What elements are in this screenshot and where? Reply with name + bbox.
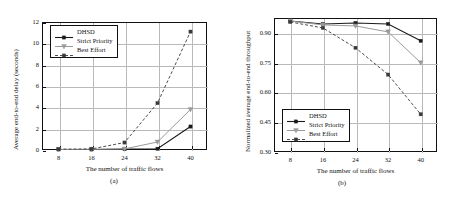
y-tick-label: 2	[20, 125, 39, 132]
y-tick-label: 8	[20, 61, 39, 68]
panel-caption-a: (a)	[0, 178, 228, 185]
y-tick-label: 0.45	[252, 119, 271, 126]
y-axis-tick	[43, 151, 46, 152]
legend-label: Strict Priority	[309, 122, 345, 129]
legend-item: DHSD	[286, 112, 345, 121]
legend-label: DHSD	[309, 113, 327, 120]
x-tick-label: 32	[154, 155, 161, 162]
legend-marker-icon	[54, 28, 74, 37]
x-tick-label: 8	[57, 155, 60, 162]
series-line	[59, 127, 191, 150]
x-axis-title-a: The number of traffic flows	[42, 166, 207, 173]
x-tick-label: 24	[352, 157, 359, 164]
legend-item: DHSD	[54, 28, 113, 37]
y-tick-label: 10	[20, 40, 39, 47]
y-tick-label: 0.60	[252, 89, 271, 96]
legend-label: Best Effort	[309, 131, 338, 138]
chart-panel-a: DHSDStrict PriorityBest Effort Average e…	[0, 0, 228, 207]
y-tick-label: 0.75	[252, 59, 271, 66]
x-tick-label: 8	[289, 157, 292, 164]
y-tick-label: 6	[20, 83, 39, 90]
y-tick-label: 0.90	[252, 30, 271, 37]
x-tick-label: 16	[320, 157, 327, 164]
x-tick-label: 32	[385, 157, 392, 164]
chart-panel-b: DHSDStrict PriorityBest Effort Normalize…	[228, 0, 456, 207]
legend-a: DHSDStrict PriorityBest Effort	[50, 25, 118, 58]
y-axis-title-b: Normalized average end-to-end throughput	[245, 31, 252, 152]
panel-caption-b: (b)	[228, 180, 456, 187]
legend-item: Best Effort	[286, 130, 345, 139]
x-tick-label: 16	[88, 155, 95, 162]
x-tick-label: 40	[187, 155, 194, 162]
legend-marker-icon	[286, 112, 306, 121]
y-tick-label: 12	[20, 19, 39, 26]
legend-marker-icon	[54, 37, 74, 46]
y-tick-label: 0.30	[252, 149, 271, 156]
legend-marker-icon	[286, 121, 306, 130]
x-tick-label: 24	[121, 155, 128, 162]
y-axis-tick	[275, 153, 278, 154]
legend-marker-icon	[286, 130, 306, 139]
legend-label: DHSD	[77, 29, 95, 36]
legend-item: Strict Priority	[54, 37, 113, 46]
y-tick-label: 4	[20, 104, 39, 111]
series-line	[290, 22, 420, 114]
x-tick-label: 40	[417, 157, 424, 164]
y-axis-title-a: Average end-to-end delay (seconds)	[13, 49, 20, 150]
x-axis-title-b: The number of traffic flows	[274, 168, 437, 175]
figure-container: DHSDStrict PriorityBest Effort Average e…	[0, 0, 457, 207]
legend-item: Best Effort	[54, 46, 113, 55]
legend-label: Strict Priority	[77, 38, 113, 45]
y-tick-label: 0	[20, 147, 39, 154]
legend-b: DHSDStrict PriorityBest Effort	[282, 109, 350, 142]
legend-item: Strict Priority	[286, 121, 345, 130]
legend-marker-icon	[54, 46, 74, 55]
legend-label: Best Effort	[77, 47, 106, 54]
